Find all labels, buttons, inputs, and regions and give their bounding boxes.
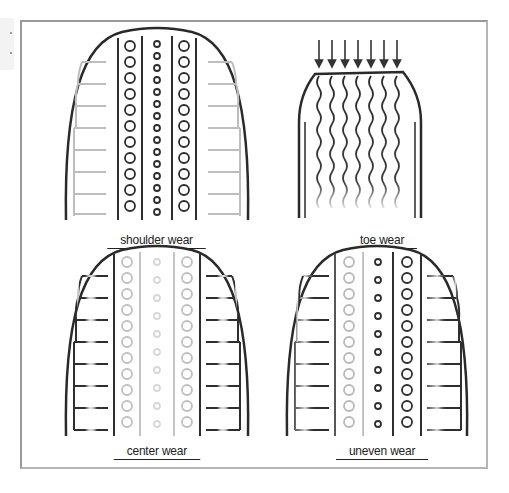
panel-uneven-wear: uneven wear (277, 240, 487, 455)
arrow-icons (319, 40, 397, 64)
side-tab (0, 18, 14, 70)
side-tab-mark (10, 52, 12, 54)
caption-center-wear: center wear (52, 443, 262, 460)
caption-uneven-wear: uneven wear (277, 443, 487, 460)
panel-shoulder-wear: shoulder wear (52, 22, 262, 237)
tire-shoulder-wear-illustration (52, 22, 262, 222)
panel-center-wear: center wear (52, 240, 262, 455)
tire-center-wear-illustration (52, 240, 262, 440)
tire-uneven-wear-illustration (277, 240, 487, 440)
side-tab-mark (10, 32, 12, 34)
tire-toe-wear-illustration (277, 22, 487, 222)
panel-toe-wear: toe wear (277, 22, 487, 237)
